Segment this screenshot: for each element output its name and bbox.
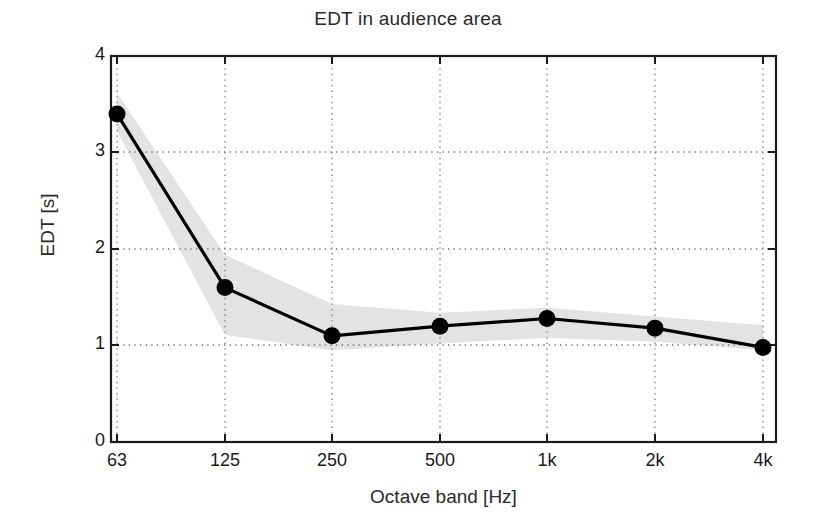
y-tick-label: 1 [71, 333, 105, 354]
y-tick-label: 2 [71, 237, 105, 258]
data-point-marker [432, 318, 449, 335]
uncertainty-band [117, 93, 763, 351]
x-tick-label: 500 [410, 450, 470, 471]
y-tick-label: 4 [71, 44, 105, 65]
x-tick-label: 1k [517, 450, 577, 471]
chart-page: EDT in audience area Octave band [Hz] ED… [0, 0, 815, 532]
data-point-marker [324, 327, 341, 344]
data-point-marker [109, 105, 126, 122]
x-tick-label: 125 [195, 450, 255, 471]
x-tick-label: 63 [87, 450, 147, 471]
y-tick-label: 3 [71, 140, 105, 161]
x-axis-label: Octave band [Hz] [111, 486, 776, 508]
y-axis-label: EDT [s] [37, 165, 59, 285]
data-point-marker [647, 320, 664, 337]
x-tick-label: 250 [302, 450, 362, 471]
y-tick-label: 0 [71, 430, 105, 451]
data-point-marker [539, 310, 556, 327]
data-point-marker [217, 279, 234, 296]
x-tick-label: 4k [733, 450, 793, 471]
data-point-marker [755, 339, 772, 356]
x-tick-label: 2k [625, 450, 685, 471]
